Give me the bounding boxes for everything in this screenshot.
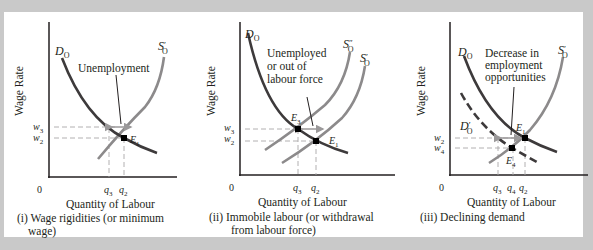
q2-label: q2: [119, 184, 128, 198]
caption: (i) Wage rigidities (or minimum: [17, 212, 164, 225]
supply-prime-label: S′O: [360, 51, 370, 68]
origin-label: 0: [229, 182, 234, 193]
panel-immobile-labour: Wage Rate Quantity of Labour 0 (ii) Immo…: [205, 22, 395, 237]
annotation-line3: opportunities: [485, 71, 546, 84]
annotation-leader: [511, 87, 514, 135]
supply-label: S′O: [558, 43, 568, 60]
caption-cont: wage): [28, 225, 56, 238]
annotation-line1: Unemployed: [267, 47, 327, 60]
q3-label: q3: [104, 184, 113, 198]
annotation-line1: Decrease in: [485, 47, 539, 59]
caption: (ii) Immobile labour (or withdrawal: [209, 211, 374, 224]
q4-label: q4: [507, 182, 516, 196]
panel-wage-rigidities: Wage Rate Quantity of Labour 0 (i) Wage …: [13, 22, 177, 238]
origin-label: 0: [439, 182, 444, 193]
q3-label: q3: [493, 182, 502, 196]
caption-cont: from labour force): [231, 224, 316, 237]
equilibrium-point-e3: [295, 126, 301, 132]
equilibrium-point-e1: [313, 138, 319, 144]
annotation-leader: [307, 97, 313, 126]
demand-label: DO: [54, 44, 70, 60]
equilibrium-point-e1: [121, 135, 127, 141]
y-axis-label: Wage Rate: [205, 66, 218, 116]
annotation-line3: labour force: [267, 73, 323, 85]
y-axis-label: Wage Rate: [13, 66, 26, 116]
demand-shifted-label: D′O: [459, 119, 473, 136]
demand-label: DO: [457, 45, 473, 61]
e1-label: E1: [129, 134, 140, 148]
x-axis-label: Quantity of Labour: [467, 196, 556, 209]
q2-label: q2: [519, 182, 528, 196]
annotation-line2: or out of: [267, 60, 307, 72]
e4-label: E4: [505, 155, 516, 169]
supply-double-prime-label: S″O: [343, 37, 354, 54]
demand-label: DO: [244, 27, 260, 43]
x-axis-label: Quantity of Labour: [66, 198, 155, 211]
supply-label: S′O: [158, 39, 168, 56]
labour-market-diagrams: Wage Rate Quantity of Labour 0 (i) Wage …: [0, 0, 593, 250]
unemployment-annotation: Unemployment: [78, 62, 150, 75]
y-axis-label: Wage Rate: [415, 66, 428, 116]
caption: (iii) Declining demand: [420, 211, 525, 224]
q3-label: q3: [293, 182, 302, 196]
x-axis-label: Quantity of Labour: [258, 196, 347, 209]
origin-label: 0: [37, 184, 42, 195]
q2-label: q2: [311, 182, 320, 196]
annotation-leader: [116, 75, 121, 124]
panel-declining-demand: Wage Rate Quantity of Labour 0 (iii) Dec…: [415, 22, 588, 224]
equilibrium-point-e4: [509, 145, 515, 151]
